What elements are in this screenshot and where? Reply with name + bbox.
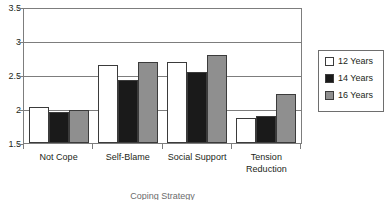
legend-item-14-years: 14 Years (325, 74, 383, 83)
bar-self-blame-12-years (98, 65, 118, 143)
x-tick-mark-4 (300, 144, 301, 149)
bar-self-blame-16-years (138, 62, 158, 143)
x-tick-mark-1 (92, 144, 93, 149)
bar-tension-reduction-14-years (256, 116, 276, 143)
bar-not-cope-16-years (69, 110, 89, 143)
x-tick-mark-3 (231, 144, 232, 149)
bar-groups (24, 9, 301, 143)
bar-social-support-12-years (167, 62, 187, 143)
legend-swatch-16-years-icon (325, 91, 334, 100)
legend-swatch-12-years-icon (325, 57, 334, 66)
x-label-tension-reduction: Tension Reduction (232, 152, 301, 175)
x-axis-title: Coping Strategy (24, 191, 301, 200)
chart-figure: 3.5 3 2.5 2 1.5 (0, 0, 389, 200)
bar-not-cope-12-years (29, 107, 49, 143)
x-tick-mark-2 (162, 144, 163, 149)
x-label-self-blame: Self-Blame (93, 152, 162, 175)
x-tick-mark-0 (23, 144, 24, 149)
bar-self-blame-14-years (118, 80, 138, 143)
legend-swatch-14-years-icon (325, 74, 334, 83)
x-axis-labels: Not Cope Self-Blame Social Support Tensi… (24, 152, 301, 175)
bar-group-not-cope (24, 9, 93, 143)
bar-group-tension-reduction (232, 9, 301, 143)
bar-tension-reduction-12-years (236, 118, 256, 143)
x-label-social-support: Social Support (163, 152, 232, 175)
x-tick-marks (23, 144, 302, 150)
legend-item-16-years: 16 Years (325, 91, 383, 100)
bar-social-support-16-years (207, 55, 227, 143)
x-label-not-cope: Not Cope (24, 152, 93, 175)
legend-label-16-years: 16 Years (338, 91, 373, 100)
bar-social-support-14-years (187, 72, 207, 143)
bar-group-social-support (163, 9, 232, 143)
legend-label-12-years: 12 Years (338, 57, 373, 66)
legend-label-14-years: 14 Years (338, 74, 373, 83)
legend: 12 Years 14 Years 16 Years (318, 50, 384, 112)
bar-tension-reduction-16-years (276, 94, 296, 143)
bar-group-self-blame (93, 9, 162, 143)
bar-not-cope-14-years (49, 112, 69, 143)
legend-item-12-years: 12 Years (325, 57, 383, 66)
